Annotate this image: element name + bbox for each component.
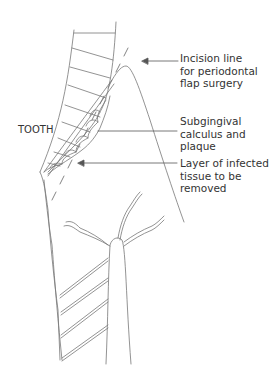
- gingiva: [40, 48, 184, 360]
- label-infected-tissue: Layer of infected tissue to be removed: [180, 157, 269, 195]
- label-incision-line: Incision line for periodontal flap surge…: [180, 52, 258, 90]
- leader-lines: [78, 58, 178, 166]
- label-subgingival-calculus: Subgingival calculus and plaque: [180, 115, 246, 153]
- arrow-head-icon: [142, 58, 148, 64]
- root-structure: [64, 192, 164, 364]
- arrow-head-icon: [78, 160, 84, 166]
- alveolar-bone: [60, 258, 108, 361]
- label-tooth: TOOTH: [18, 124, 53, 135]
